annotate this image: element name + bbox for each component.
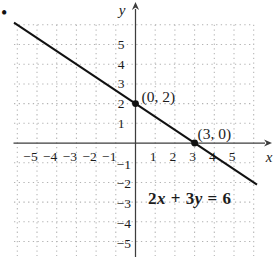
y-tick-label: 2 <box>118 96 125 111</box>
coordinate-graph: −5−4−3−2−11234554321−1−2−3−4−5yx(0, 2)(3… <box>0 0 280 257</box>
point-marker <box>132 100 139 107</box>
y-tick-label: −4 <box>117 216 132 231</box>
x-tick-label: 3 <box>189 149 196 164</box>
x-tick-label: −4 <box>43 149 58 164</box>
axes <box>14 2 273 257</box>
y-tick-label: −2 <box>117 176 131 191</box>
tick-labels: −5−4−3−2−11234554321−1−2−3−4−5 <box>23 37 235 251</box>
x-tick-label: −1 <box>102 149 116 164</box>
y-tick-label: −1 <box>117 157 131 172</box>
y-tick-label: 5 <box>118 37 125 52</box>
point-label: (0, 2) <box>142 88 176 106</box>
y-tick-label: −3 <box>117 196 132 211</box>
x-tick-label: 1 <box>150 149 157 164</box>
y-tick-label: 1 <box>118 116 125 131</box>
y-tick-label: 4 <box>118 57 125 72</box>
x-tick-label: 2 <box>170 149 177 164</box>
x-tick-label: −2 <box>82 149 96 164</box>
x-tick-label: −3 <box>63 149 78 164</box>
point-label: (3, 0) <box>198 125 232 143</box>
worksheet-page: • −5−4−3−2−11234554321−1−2−3−4−5yx(0, 2)… <box>0 0 280 257</box>
x-axis-label: x <box>265 149 273 165</box>
x-axis-arrow <box>264 139 272 146</box>
y-tick-label: −5 <box>117 236 132 251</box>
equation-label: 2x + 3y = 6 <box>148 189 231 208</box>
x-tick-label: 5 <box>229 149 236 164</box>
y-axis-label: y <box>117 2 126 18</box>
x-tick-label: −5 <box>23 149 38 164</box>
y-axis-arrow <box>132 2 139 10</box>
y-tick-label: 3 <box>118 76 125 91</box>
